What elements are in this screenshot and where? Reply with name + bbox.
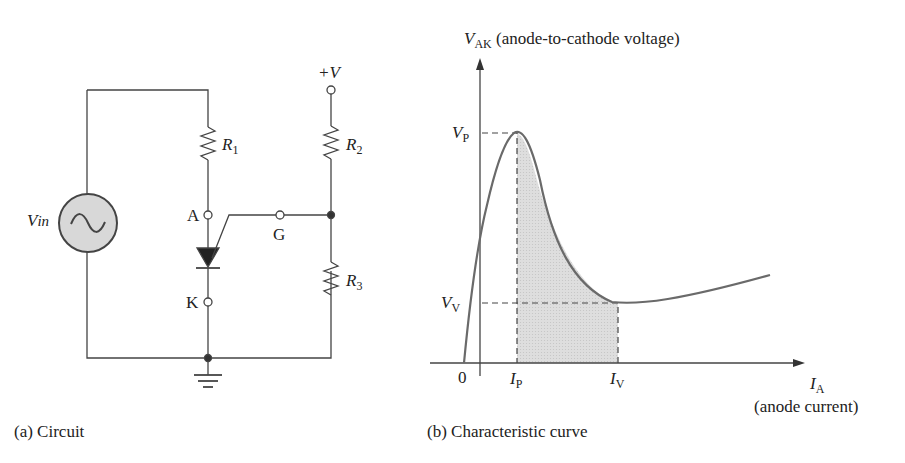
y-axis-label: VAK (anode-to-cathode voltage)	[464, 30, 680, 47]
circuit-caption: (a) Circuit	[14, 422, 84, 442]
vp-main: V	[452, 123, 462, 142]
gate-lead	[212, 215, 276, 258]
vv-main: V	[441, 293, 451, 312]
circuit	[59, 86, 338, 387]
x-axis-arrow-icon	[793, 359, 805, 367]
r3-sub: 3	[356, 279, 362, 293]
gate-terminal-icon	[276, 211, 284, 219]
x-axis-main: I	[810, 374, 816, 393]
y-axis-arrow-icon	[476, 58, 484, 70]
source-label-sub: in	[37, 213, 49, 229]
resistor-r1-icon	[201, 127, 215, 160]
junction-dot-icon	[205, 355, 212, 362]
r3-main: R	[346, 271, 356, 290]
characteristic-chart	[430, 58, 805, 376]
vp-tick-label: VP	[452, 124, 469, 141]
origin-label: 0	[458, 369, 467, 386]
r1-main: R	[222, 135, 232, 154]
r2-main: R	[346, 135, 356, 154]
chart-caption: (b) Characteristic curve	[427, 422, 587, 442]
r1-label: R1	[222, 136, 238, 153]
x-axis-desc: (anode current)	[754, 398, 858, 415]
iv-sub: V	[616, 377, 625, 391]
vv-tick-label: VV	[441, 294, 460, 311]
supply-terminal-icon	[327, 86, 335, 94]
scr-icon	[197, 248, 219, 267]
anode-label: A	[187, 207, 199, 224]
negative-resistance-region	[517, 133, 618, 363]
ip-tick-label: IP	[510, 370, 522, 387]
cathode-terminal-icon	[204, 298, 212, 306]
r1-sub: 1	[232, 143, 238, 157]
junction-dot-icon	[328, 212, 335, 219]
source-label: Vin	[27, 212, 49, 229]
y-axis-desc: (anode-to-cathode voltage)	[496, 29, 680, 48]
vp-guide	[482, 133, 517, 363]
resistor-r2-icon	[324, 126, 338, 159]
y-axis-sub: AK	[474, 37, 491, 51]
y-axis-main: V	[464, 29, 474, 48]
gate-label: G	[273, 226, 285, 243]
vp-sub: P	[462, 131, 469, 145]
x-axis-sub: A	[816, 382, 825, 396]
r3-label: R3	[346, 272, 362, 289]
ip-sub: P	[516, 377, 523, 391]
vv-sub: V	[451, 301, 460, 315]
x-axis-label: IA	[810, 375, 824, 392]
iv-main: I	[610, 369, 616, 388]
iv-tick-label: IV	[610, 370, 624, 387]
r2-label: R2	[346, 136, 362, 153]
ground-icon	[194, 375, 222, 387]
anode-terminal-icon	[204, 211, 212, 219]
source-label-main: V	[27, 211, 37, 230]
r2-sub: 2	[356, 143, 362, 157]
wire-top-left	[87, 90, 208, 127]
supply-label: +V	[318, 64, 340, 81]
cathode-label: K	[186, 294, 198, 311]
ip-main: I	[510, 369, 516, 388]
diagram-canvas	[0, 0, 905, 463]
